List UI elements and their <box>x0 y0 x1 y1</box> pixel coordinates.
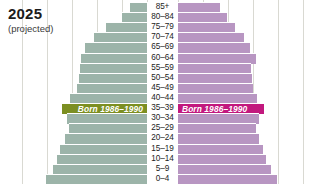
age-label: 80–84 <box>151 13 173 21</box>
female-bar-cell <box>178 164 325 174</box>
male-bar-cell <box>0 73 147 83</box>
female-bar-cell <box>178 12 325 22</box>
male-bar-cell: Born 1986–1990 <box>0 103 147 113</box>
male-bar-cell <box>0 63 147 73</box>
age-label-cell: 45–49 <box>147 83 178 93</box>
pyramid-row: 55–59 <box>0 63 325 73</box>
pyramid-row: 25–29 <box>0 123 325 133</box>
age-label-cell: 85+ <box>147 2 178 12</box>
pyramid-row: 70–74 <box>0 32 325 42</box>
pyramid-row: 65–69 <box>0 42 325 52</box>
pyramid-row: 60–64 <box>0 53 325 63</box>
male-bar-cell <box>0 113 147 123</box>
pyramid-row: 40–44 <box>0 93 325 103</box>
age-label-cell: 35–39 <box>147 103 178 113</box>
age-label-cell: 25–29 <box>147 123 178 133</box>
female-bar-cell: Born 1986–1990 <box>178 103 325 113</box>
age-label-cell: 55–59 <box>147 63 178 73</box>
age-label: 55–59 <box>151 64 173 72</box>
age-label-cell: 65–69 <box>147 42 178 52</box>
male-bar-cell <box>0 83 147 93</box>
female-bar-cell <box>178 2 325 12</box>
pyramid-row: 30–34 <box>0 113 325 123</box>
female-bar-cell <box>178 42 325 52</box>
age-label: 75–79 <box>151 23 173 31</box>
age-label-cell: 0–4 <box>147 174 178 184</box>
title-block: 2025 (projected) <box>8 6 53 34</box>
female-bar <box>178 174 277 184</box>
age-label-cell: 75–79 <box>147 22 178 32</box>
male-bar <box>46 174 147 184</box>
age-label: 20–24 <box>151 134 173 142</box>
female-bar-cell <box>178 113 325 123</box>
male-bar-cell <box>0 133 147 143</box>
female-bar-cell <box>178 144 325 154</box>
male-bar-cell <box>0 42 147 52</box>
female-bar-cell <box>178 83 325 93</box>
page-title: 2025 <box>8 6 53 22</box>
female-bar-cell <box>178 73 325 83</box>
female-bar-cell <box>178 63 325 73</box>
male-bar-cell <box>0 123 147 133</box>
female-bar-cell <box>178 32 325 42</box>
female-bar-cell <box>178 133 325 143</box>
pyramid-row: 0–4 <box>0 174 325 184</box>
age-label: 65–69 <box>151 43 173 51</box>
age-label: 85+ <box>156 3 170 11</box>
age-label: 0–4 <box>156 175 169 183</box>
male-bar-cell <box>0 144 147 154</box>
age-label: 10–14 <box>151 155 173 163</box>
age-label: 30–34 <box>151 114 173 122</box>
age-label: 60–64 <box>151 54 173 62</box>
pyramid-row: Born 1986–199035–39Born 1986–1990 <box>0 103 325 113</box>
age-label-cell: 30–34 <box>147 113 178 123</box>
age-label-cell: 20–24 <box>147 133 178 143</box>
male-bar-cell <box>0 53 147 63</box>
female-bar-cell <box>178 53 325 63</box>
age-label: 5–9 <box>156 165 169 173</box>
age-label: 70–74 <box>151 33 173 41</box>
age-label-cell: 80–84 <box>147 12 178 22</box>
age-label-cell: 70–74 <box>147 32 178 42</box>
pyramid-row: 15–19 <box>0 144 325 154</box>
age-label-cell: 50–54 <box>147 73 178 83</box>
male-bar-cell <box>0 93 147 103</box>
male-bar-cell <box>0 164 147 174</box>
pyramid-row: 10–14 <box>0 154 325 164</box>
age-label: 15–19 <box>151 145 173 153</box>
chart-subtitle: (projected) <box>8 24 53 34</box>
male-bar-cell <box>0 32 147 42</box>
female-bar-cell <box>178 22 325 32</box>
female-bar-cell <box>178 123 325 133</box>
female-bar-cell <box>178 154 325 164</box>
pyramid-row: 20–24 <box>0 133 325 143</box>
male-bar-cell <box>0 174 147 184</box>
age-label: 40–44 <box>151 94 173 102</box>
age-label-cell: 60–64 <box>147 53 178 63</box>
age-label-cell: 15–19 <box>147 144 178 154</box>
age-label: 45–49 <box>151 84 173 92</box>
population-pyramid-chart: 2025 (projected) 85+80–8475–7970–7465–69… <box>0 0 325 184</box>
pyramid-row: 50–54 <box>0 73 325 83</box>
age-label: 25–29 <box>151 124 173 132</box>
age-label-cell: 40–44 <box>147 93 178 103</box>
female-bar-cell <box>178 93 325 103</box>
age-label-cell: 10–14 <box>147 154 178 164</box>
pyramid-row: 5–9 <box>0 164 325 174</box>
pyramid-row: 45–49 <box>0 83 325 93</box>
male-bar-cell <box>0 154 147 164</box>
age-label: 35–39 <box>151 104 173 112</box>
age-label: 50–54 <box>151 74 173 82</box>
age-label-cell: 5–9 <box>147 164 178 174</box>
female-bar-cell <box>178 174 325 184</box>
